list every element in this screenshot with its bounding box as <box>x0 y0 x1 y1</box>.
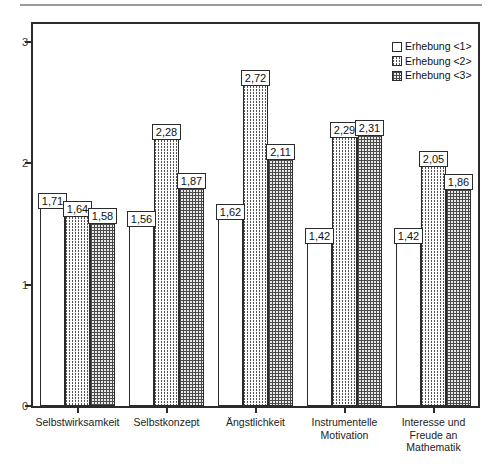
y-axis-tick-mark <box>25 41 31 43</box>
legend-item: Erhebung <2> <box>392 55 472 69</box>
bar <box>179 179 204 406</box>
bar <box>332 128 357 406</box>
bar <box>154 130 179 406</box>
bar-value-label: 1,42 <box>305 228 334 244</box>
bar <box>396 234 421 406</box>
legend-item-label: Erhebung <1> <box>405 40 472 54</box>
bar-value-label: 1,58 <box>88 208 117 224</box>
legend-item: Erhebung <3> <box>392 69 472 83</box>
y-axis-tick-mark <box>25 162 31 164</box>
bar-value-label: 1,56 <box>127 211 156 227</box>
bar <box>40 199 65 406</box>
bar <box>446 180 471 406</box>
x-axis-category-label: Interesse und Freude an Mathematik <box>379 416 489 454</box>
bar <box>218 210 243 406</box>
bar <box>307 234 332 406</box>
bar-value-label: 2,05 <box>419 151 448 167</box>
bar-value-label: 2,72 <box>241 70 270 86</box>
bar-value-label: 1,86 <box>444 174 473 190</box>
x-axis-tick-mark <box>433 406 435 413</box>
bar <box>129 217 154 406</box>
x-axis-tick-mark <box>77 406 79 413</box>
y-axis-tick-mark <box>25 284 31 286</box>
bar <box>90 214 115 406</box>
bar-value-label: 2,11 <box>266 144 295 160</box>
bar-value-label: 2,28 <box>152 124 181 140</box>
y-axis-tick-mark <box>25 405 31 407</box>
bar <box>65 207 90 406</box>
bar-chart: Erhebung <1>Erhebung <2>Erhebung <3> 012… <box>0 0 498 468</box>
bar <box>357 126 382 406</box>
bar <box>268 150 293 406</box>
chart-legend: Erhebung <1>Erhebung <2>Erhebung <3> <box>392 40 472 84</box>
bar-value-label: 1,62 <box>216 204 245 220</box>
legend-item-label: Erhebung <2> <box>405 55 472 69</box>
legend-item-label: Erhebung <3> <box>405 69 472 83</box>
legend-item: Erhebung <1> <box>392 40 472 54</box>
bar-value-label: 2,31 <box>355 120 384 136</box>
legend-swatch-icon <box>392 42 402 52</box>
x-axis-tick-mark <box>344 406 346 413</box>
legend-swatch-icon <box>392 56 402 66</box>
bar-value-label: 1,87 <box>177 173 206 189</box>
legend-swatch-icon <box>392 71 402 81</box>
bar <box>243 76 268 406</box>
x-axis-tick-mark <box>255 406 257 413</box>
x-axis-tick-mark <box>166 406 168 413</box>
bar <box>421 157 446 406</box>
bar-value-label: 1,42 <box>394 228 423 244</box>
